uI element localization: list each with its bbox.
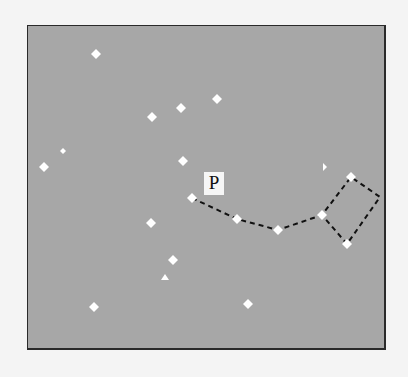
fragment-point-icon: [323, 163, 327, 171]
star-point-icon: [39, 162, 49, 172]
star-point-icon: [273, 225, 283, 235]
star-point-icon: [176, 103, 186, 113]
cropped-caption-text: [0, 0, 408, 4]
star-point-icon: [168, 255, 178, 265]
star-point-icon: [178, 156, 188, 166]
star-point-icon: [187, 193, 197, 203]
points-layer: [39, 49, 356, 312]
star-point-icon: [91, 49, 101, 59]
star-point-icon: [232, 214, 242, 224]
star-point-icon: [212, 94, 222, 104]
diagram-frame: P: [27, 25, 386, 350]
star-point-icon: [147, 112, 157, 122]
star-point-icon: [243, 299, 253, 309]
star-point-icon: [146, 218, 156, 228]
star-point-icon: [60, 148, 66, 154]
triangle-point-icon: [161, 274, 169, 280]
star-point-icon: [317, 210, 327, 220]
point-label-p: P: [204, 172, 224, 195]
star-point-icon: [89, 302, 99, 312]
